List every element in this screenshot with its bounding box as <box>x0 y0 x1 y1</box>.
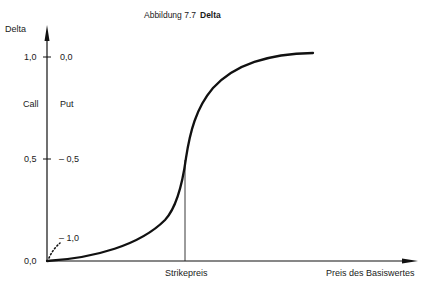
put-column-label: Put <box>60 99 74 109</box>
x-axis-arrow-icon <box>402 259 418 264</box>
call-tick-05: 0,5 <box>24 154 37 164</box>
delta-chart <box>0 0 432 293</box>
delta-curve <box>47 53 313 261</box>
put-tick-minus-05: – 0,5 <box>59 154 79 164</box>
strike-label: Strikepreis <box>165 268 208 278</box>
x-axis-label: Preis des Basiswertes <box>326 268 415 278</box>
call-column-label: Call <box>23 99 39 109</box>
call-tick-1: 1,0 <box>24 52 37 62</box>
y-axis-label: Delta <box>5 24 26 34</box>
put-tick-0: 0,0 <box>60 52 73 62</box>
dotted-arc <box>49 243 60 258</box>
y-axis-arrow-icon <box>45 25 50 41</box>
put-tick-minus-1: – 1,0 <box>59 233 79 243</box>
call-tick-0: 0,0 <box>24 256 37 266</box>
